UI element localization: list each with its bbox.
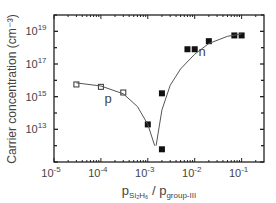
data-point-filled-square xyxy=(184,46,190,52)
data-point-filled-square xyxy=(192,46,198,52)
data-point-filled-square xyxy=(159,90,165,96)
y-tick-label: 1019 xyxy=(25,23,47,37)
x-tick-label: 10-4 xyxy=(88,165,108,179)
data-point-filled-square xyxy=(239,32,245,38)
data-series xyxy=(74,32,245,152)
x-tick-label: 10-3 xyxy=(135,165,155,179)
annotation-n: n xyxy=(198,44,205,59)
y-tick-labels: 1013101510171019 xyxy=(25,23,47,135)
x-tick-label: 10-5 xyxy=(41,165,61,179)
y-axis-label: Carrier concentration (cm⁻³) xyxy=(5,14,19,163)
x-axis-label: pSi₂H₆ / pgroup-III xyxy=(122,183,196,200)
y-tick-label: 1015 xyxy=(25,89,47,103)
chart: 10-510-410-310-210-1 1013101510171019 pn… xyxy=(0,0,276,203)
y-tick-label: 1017 xyxy=(25,56,47,70)
fit-curve xyxy=(76,83,154,146)
annotations: pn xyxy=(105,44,206,106)
x-tick-labels: 10-510-410-310-210-1 xyxy=(41,165,249,179)
annotation-p: p xyxy=(105,91,112,106)
x-tick-label: 10-2 xyxy=(182,165,202,179)
y-tick-label: 1013 xyxy=(25,121,47,135)
data-point-filled-square xyxy=(159,146,165,152)
x-tick-label: 10-1 xyxy=(229,165,249,179)
